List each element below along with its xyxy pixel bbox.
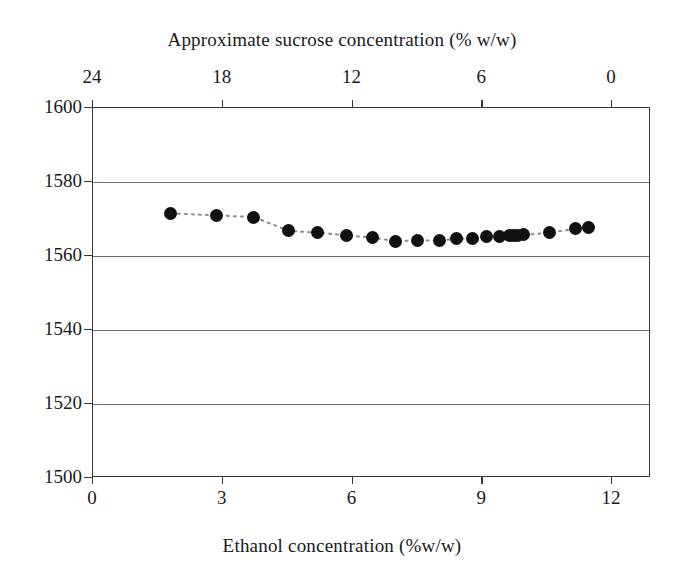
secondary-x-tick-label: 6 <box>477 66 487 88</box>
x-tick-label: 12 <box>602 487 621 509</box>
x-tick-mark <box>222 477 223 484</box>
plot-area <box>92 107 650 477</box>
y-tick-mark <box>84 107 92 108</box>
x-tick-mark <box>611 477 612 484</box>
x-tick-mark <box>352 477 353 484</box>
y-tick-label: 1520 <box>8 392 82 414</box>
secondary-x-tick-label: 24 <box>83 66 102 88</box>
y-tick-label: 1560 <box>8 244 82 266</box>
secondary-x-tick-label: 0 <box>606 66 616 88</box>
y-tick-mark <box>84 255 92 256</box>
y-tick-label: 1500 <box>8 466 82 488</box>
y-tick-mark <box>84 403 92 404</box>
x-tick-label: 3 <box>217 487 227 509</box>
secondary-x-tick-mark <box>92 100 93 107</box>
x-tick-mark <box>481 477 482 484</box>
y-tick-mark <box>84 181 92 182</box>
secondary-x-axis-title: Approximate sucrose concentration (% w/w… <box>0 29 684 51</box>
secondary-x-tick-label: 18 <box>212 66 231 88</box>
secondary-x-tick-mark <box>352 100 353 107</box>
x-tick-mark <box>92 477 93 484</box>
x-tick-label: 0 <box>87 487 97 509</box>
y-tick-label: 1540 <box>8 318 82 340</box>
x-axis-title: Ethanol concentration (%w/w) <box>0 535 684 557</box>
y-tick-mark <box>84 477 92 478</box>
y-tick-label: 1580 <box>8 170 82 192</box>
x-tick-label: 9 <box>477 487 487 509</box>
secondary-x-tick-mark <box>222 100 223 107</box>
y-tick-mark <box>84 329 92 330</box>
y-tick-label: 1600 <box>8 96 82 118</box>
x-tick-label: 6 <box>347 487 357 509</box>
secondary-x-tick-label: 12 <box>342 66 361 88</box>
secondary-x-tick-mark <box>481 100 482 107</box>
series-connector-line <box>93 108 651 478</box>
secondary-x-tick-mark <box>611 100 612 107</box>
figure: Approximate sucrose concentration (% w/w… <box>0 0 684 583</box>
